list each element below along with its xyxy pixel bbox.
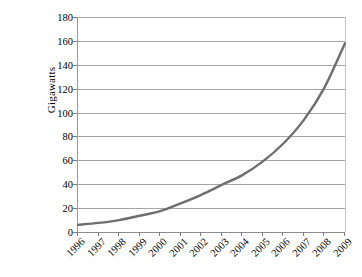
y-axis-tick-label: 100	[37, 107, 77, 118]
plot-area	[77, 17, 346, 232]
y-axis-tick-label: 120	[37, 83, 77, 94]
y-axis-tick-label: 180	[37, 12, 77, 23]
series-line-chart	[78, 17, 345, 232]
y-axis-tick-labels: 020406080100120140160180	[31, 17, 77, 232]
x-axis-tick-labels: 1996199719981999200020012002200320042005…	[0, 236, 362, 277]
series-line-installed-capacity	[78, 43, 345, 225]
y-axis-tick-label: 20	[37, 203, 77, 214]
y-axis-tick-label: 40	[37, 179, 77, 190]
y-axis-tick-label: 80	[37, 131, 77, 142]
y-axis-tick-label: 160	[37, 35, 77, 46]
y-axis-tick-label: 140	[37, 59, 77, 70]
chart-container: Gigawatts 020406080100120140160180 19961…	[0, 0, 362, 277]
y-axis-tick-label: 60	[37, 155, 77, 166]
